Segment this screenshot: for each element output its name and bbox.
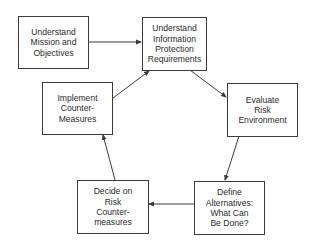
arrow-implement-to-requirements xyxy=(113,71,149,98)
node-evaluate-risk: Evaluate Risk Environment xyxy=(227,83,298,137)
node-understand-requirements: Understand Information Protection Requir… xyxy=(142,17,207,71)
node-define-alternatives: Define Alternatives: What Can Be Done? xyxy=(194,181,265,235)
arrow-requirements-to-evaluate xyxy=(190,70,226,97)
node-implement-countermeasures: Implement Counter- Measures xyxy=(42,82,113,135)
node-decide-countermeasures: Decide on Risk Counter- measures xyxy=(77,180,149,234)
node-label: Define Alternatives: What Can Be Done? xyxy=(206,187,253,228)
node-label: Understand Information Protection Requir… xyxy=(148,23,202,64)
arrow-evaluate-to-alternatives xyxy=(225,136,239,180)
node-label: Evaluate Risk Environment xyxy=(238,95,286,126)
node-label: Understand Mission and Objectives xyxy=(31,27,77,58)
node-understand-mission: Understand Mission and Objectives xyxy=(18,16,89,69)
node-label: Decide on Risk Counter- measures xyxy=(94,186,133,227)
node-label: Implement Counter- Measures xyxy=(57,93,97,124)
arrow-decide-to-implement xyxy=(103,135,115,180)
